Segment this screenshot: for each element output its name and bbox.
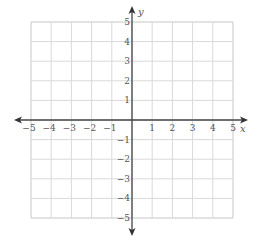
y-tick-label: −2 (117, 154, 130, 164)
y-tick-label: 3 (124, 56, 130, 66)
y-axis-label: y (137, 6, 144, 17)
y-tick-label: −4 (117, 193, 131, 203)
x-tick-label: 1 (149, 123, 155, 133)
x-tick-label: 4 (210, 123, 216, 133)
y-tick-label: 1 (124, 95, 130, 105)
coordinate-plane: −5−4−3−2−112345 54321−1−2−3−4−5 x y (0, 0, 260, 241)
x-tick-label: −1 (103, 123, 116, 133)
x-tick-label: 5 (230, 123, 236, 133)
x-tick-label: 3 (190, 123, 196, 133)
x-tick-label: 2 (170, 123, 176, 133)
y-tick-label: 2 (124, 76, 130, 86)
y-tick-label: 4 (124, 37, 130, 47)
x-tick-labels: −5−4−3−2−112345 (22, 123, 236, 133)
y-tick-label: 5 (124, 17, 130, 27)
x-tick-label: −3 (63, 123, 77, 133)
x-axis-label: x (240, 123, 246, 134)
y-tick-label: −3 (117, 174, 131, 184)
x-tick-label: −4 (43, 123, 57, 133)
y-tick-label: −1 (117, 135, 130, 145)
x-tick-label: −2 (83, 123, 96, 133)
y-tick-label: −5 (117, 213, 131, 223)
x-tick-label: −5 (22, 123, 36, 133)
